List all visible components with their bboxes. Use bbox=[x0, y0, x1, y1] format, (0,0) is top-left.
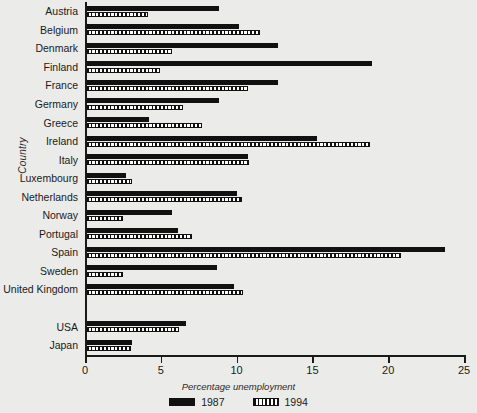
bar-1987 bbox=[87, 6, 219, 11]
bar-group bbox=[87, 280, 466, 299]
bar-1994 bbox=[87, 86, 248, 91]
bar-1994 bbox=[87, 290, 243, 295]
bar-1994 bbox=[87, 179, 132, 184]
bar-1994 bbox=[87, 327, 179, 332]
bar-1987 bbox=[87, 43, 278, 48]
category-label: Belgium bbox=[0, 21, 82, 40]
category-label: Norway bbox=[0, 206, 82, 225]
x-tick bbox=[388, 357, 390, 363]
bar-group bbox=[87, 169, 466, 188]
bar-1987 bbox=[87, 24, 239, 29]
x-tick-label: 10 bbox=[230, 364, 242, 376]
bar-1994 bbox=[87, 142, 370, 147]
category-label: Italy bbox=[0, 150, 82, 169]
bar-group bbox=[87, 262, 466, 281]
bar-1987 bbox=[87, 80, 278, 85]
bar-1987 bbox=[87, 321, 186, 326]
legend-item: 1987 bbox=[169, 396, 224, 408]
bar-group bbox=[87, 76, 466, 95]
category-label: Japan bbox=[0, 336, 82, 355]
legend-item: 1994 bbox=[253, 396, 308, 408]
category-label: Austria bbox=[0, 2, 82, 21]
bar-1994 bbox=[87, 68, 160, 73]
category-label: United Kingdom bbox=[0, 280, 82, 299]
bar-1994 bbox=[87, 105, 183, 110]
bar-1987 bbox=[87, 191, 237, 196]
legend-label: 1994 bbox=[285, 396, 308, 408]
category-label: Ireland bbox=[0, 132, 82, 151]
category-label-blank bbox=[0, 299, 82, 318]
x-tick bbox=[312, 357, 314, 363]
category-label: Portugal bbox=[0, 225, 82, 244]
x-axis-tick-labels: 0510152025 bbox=[85, 364, 466, 378]
bar-group bbox=[87, 58, 466, 77]
chart-legend: 19871994 bbox=[0, 396, 477, 408]
bar-1987 bbox=[87, 117, 149, 122]
bar-1987 bbox=[87, 340, 132, 345]
category-label: Germany bbox=[0, 95, 82, 114]
category-label: Spain bbox=[0, 243, 82, 262]
category-label: Denmark bbox=[0, 39, 82, 58]
bar-group bbox=[87, 95, 466, 114]
category-label: Luxembourg bbox=[0, 169, 82, 188]
bar-group bbox=[87, 336, 466, 355]
x-tick-label: 5 bbox=[158, 364, 164, 376]
bar-1987 bbox=[87, 265, 217, 270]
x-tick bbox=[161, 357, 163, 363]
bar-1987 bbox=[87, 284, 234, 289]
x-tick bbox=[85, 357, 87, 363]
bar-1994 bbox=[87, 197, 242, 202]
x-tick bbox=[464, 357, 466, 363]
bar-1987 bbox=[87, 154, 248, 159]
category-label: France bbox=[0, 76, 82, 95]
legend-swatch-1994 bbox=[253, 398, 279, 406]
bar-1994 bbox=[87, 123, 202, 128]
bar-group bbox=[87, 225, 466, 244]
x-tick-label: 15 bbox=[306, 364, 318, 376]
bar-1987 bbox=[87, 61, 372, 66]
bar-1994 bbox=[87, 346, 131, 351]
plot-area bbox=[85, 2, 466, 357]
bar-group bbox=[87, 39, 466, 58]
bar-1987 bbox=[87, 247, 445, 252]
bar-group bbox=[87, 187, 466, 206]
bar-group bbox=[87, 317, 466, 336]
bar-1994 bbox=[87, 253, 401, 258]
bar-group bbox=[87, 150, 466, 169]
bar-group bbox=[87, 132, 466, 151]
legend-label: 1987 bbox=[201, 396, 224, 408]
bar-1994 bbox=[87, 30, 260, 35]
bar-group bbox=[87, 206, 466, 225]
category-labels: AustriaBelgiumDenmarkFinlandFranceGerman… bbox=[0, 2, 82, 357]
bar-1994 bbox=[87, 160, 249, 165]
x-tick-label: 0 bbox=[82, 364, 88, 376]
x-tick-label: 25 bbox=[458, 364, 470, 376]
bar-group bbox=[87, 21, 466, 40]
bar-1987 bbox=[87, 173, 126, 178]
x-tick-label: 20 bbox=[382, 364, 394, 376]
bar-group bbox=[87, 2, 466, 21]
bar-1987 bbox=[87, 98, 219, 103]
bar-1994 bbox=[87, 49, 172, 54]
category-label: Sweden bbox=[0, 262, 82, 281]
bar-1987 bbox=[87, 210, 172, 215]
bar-1987 bbox=[87, 136, 317, 141]
x-axis-title: Percentage unemployment bbox=[0, 381, 477, 392]
category-label: Netherlands bbox=[0, 187, 82, 206]
bar-rows bbox=[87, 2, 466, 355]
bar-1994 bbox=[87, 216, 123, 221]
bar-group bbox=[87, 243, 466, 262]
category-label: Greece bbox=[0, 113, 82, 132]
category-label: USA bbox=[0, 317, 82, 336]
bar-group bbox=[87, 113, 466, 132]
bar-1994 bbox=[87, 234, 192, 239]
bar-group bbox=[87, 299, 466, 318]
legend-swatch-1987 bbox=[169, 398, 195, 406]
unemployment-bar-chart: Country AustriaBelgiumDenmarkFinlandFran… bbox=[0, 0, 477, 413]
bar-1987 bbox=[87, 228, 178, 233]
bar-1994 bbox=[87, 272, 123, 277]
x-tick bbox=[237, 357, 239, 363]
category-label: Finland bbox=[0, 58, 82, 77]
bar-1994 bbox=[87, 12, 148, 17]
